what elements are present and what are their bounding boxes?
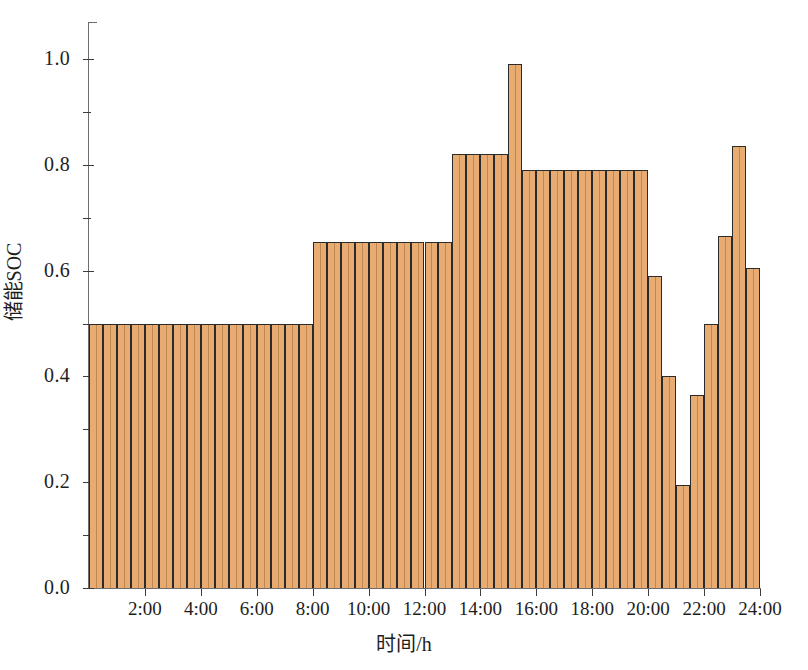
bar bbox=[718, 236, 732, 588]
y-tick-label: 0.2 bbox=[12, 471, 70, 491]
x-tick-label: 18:00 bbox=[571, 598, 614, 620]
bar bbox=[662, 376, 676, 588]
x-tick-label: 6:00 bbox=[240, 598, 274, 620]
bar bbox=[285, 324, 299, 588]
y-tick-label: 0.6 bbox=[12, 260, 70, 280]
plot-area bbox=[89, 22, 760, 588]
bar bbox=[313, 242, 327, 588]
bar bbox=[257, 324, 271, 588]
y-tick-label: 0.4 bbox=[12, 365, 70, 385]
x-tick-label: 16:00 bbox=[515, 598, 558, 620]
x-tick-label: 10:00 bbox=[347, 598, 390, 620]
x-axis-title: 时间/h bbox=[0, 628, 808, 657]
bar bbox=[452, 154, 466, 588]
y-axis-title: 储能SOC bbox=[0, 243, 27, 322]
x-tick bbox=[592, 589, 593, 596]
bar bbox=[89, 324, 103, 588]
bar bbox=[299, 324, 313, 588]
x-tick-label: 4:00 bbox=[184, 598, 218, 620]
x-tick-label: 12:00 bbox=[403, 598, 446, 620]
bar bbox=[173, 324, 187, 588]
bar bbox=[103, 324, 117, 588]
x-tick bbox=[480, 589, 481, 596]
bar bbox=[117, 324, 131, 588]
bar bbox=[369, 242, 383, 588]
bar bbox=[383, 242, 397, 588]
bar bbox=[341, 242, 355, 588]
x-tick-label: 14:00 bbox=[459, 598, 502, 620]
bar bbox=[704, 324, 718, 588]
bar bbox=[564, 170, 578, 588]
x-tick bbox=[369, 589, 370, 596]
bar bbox=[159, 324, 173, 588]
x-tick bbox=[425, 589, 426, 596]
x-tick bbox=[145, 589, 146, 596]
y-tick-label: 0.0 bbox=[12, 577, 70, 597]
bar bbox=[508, 64, 522, 588]
x-tick bbox=[648, 589, 649, 596]
bar bbox=[327, 242, 341, 588]
bar bbox=[425, 242, 439, 588]
bar bbox=[438, 242, 452, 588]
y-tick-label: 1.0 bbox=[12, 48, 70, 68]
bar bbox=[522, 170, 536, 588]
bar bbox=[494, 154, 508, 588]
x-tick bbox=[313, 589, 314, 596]
bar bbox=[201, 324, 215, 588]
bar bbox=[355, 242, 369, 588]
y-tick-label: 0.8 bbox=[12, 154, 70, 174]
x-tick bbox=[201, 589, 202, 596]
bar bbox=[187, 324, 201, 588]
bar bbox=[746, 268, 760, 588]
bar bbox=[550, 170, 564, 588]
bar bbox=[690, 395, 704, 588]
x-tick bbox=[760, 589, 761, 596]
bar bbox=[480, 154, 494, 588]
bar bbox=[676, 485, 690, 588]
bar bbox=[578, 170, 592, 588]
x-tick bbox=[257, 589, 258, 596]
x-tick-label: 20:00 bbox=[627, 598, 670, 620]
x-tick-label: 22:00 bbox=[682, 598, 725, 620]
bar bbox=[145, 324, 159, 588]
x-tick-label: 8:00 bbox=[296, 598, 330, 620]
bar bbox=[606, 170, 620, 588]
bar bbox=[397, 242, 411, 588]
y-tick-major bbox=[83, 588, 94, 589]
x-tick-label: 24:00 bbox=[738, 598, 781, 620]
bar bbox=[466, 154, 480, 588]
bar bbox=[243, 324, 257, 588]
bar bbox=[592, 170, 606, 588]
bar bbox=[131, 324, 145, 588]
bar bbox=[271, 324, 285, 588]
bar bbox=[648, 276, 662, 588]
bar bbox=[411, 242, 425, 588]
x-tick bbox=[704, 589, 705, 596]
bar bbox=[620, 170, 634, 588]
x-tick bbox=[536, 589, 537, 596]
bar bbox=[732, 146, 746, 588]
bar bbox=[215, 324, 229, 588]
x-tick-label: 2:00 bbox=[128, 598, 162, 620]
bar bbox=[536, 170, 550, 588]
chart-figure: 储能SOC 时间/h 0.00.20.40.60.81.0 2:004:006:… bbox=[0, 0, 808, 670]
bar bbox=[634, 170, 648, 588]
bar bbox=[229, 324, 243, 588]
